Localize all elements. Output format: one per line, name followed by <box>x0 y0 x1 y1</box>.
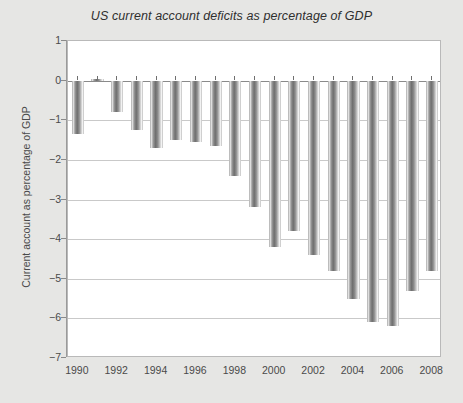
y-tick-label-1: 1 <box>35 34 61 46</box>
x-tick-label-1994: 1994 <box>136 364 176 376</box>
y-tick-label-0: 0 <box>35 74 61 86</box>
x-tick-label-1996: 1996 <box>175 364 215 376</box>
x-tick-mark-2008 <box>431 76 432 80</box>
x-tick-label-2002: 2002 <box>293 364 333 376</box>
y-tick-label--1: −1 <box>35 113 61 125</box>
x-tick-label-1990: 1990 <box>57 364 97 376</box>
y-axis-tick-labels: 10−1−2−3−4−5−6−7 <box>31 0 61 403</box>
bar-1999[interactable] <box>249 81 261 208</box>
x-tick-mark-2007 <box>411 76 412 80</box>
bar-2006[interactable] <box>387 81 399 327</box>
x-tick-mark-1990 <box>77 76 78 80</box>
bar-2004[interactable] <box>347 81 359 299</box>
x-tick-label-1992: 1992 <box>96 364 136 376</box>
y-tick-mark--5 <box>61 278 66 279</box>
chart-figure: US current account deficits as percentag… <box>0 0 463 403</box>
x-tick-mark-1996 <box>195 76 196 80</box>
bar-2003[interactable] <box>328 81 340 271</box>
x-tick-mark-1993 <box>136 76 137 80</box>
y-tick-label--6: −6 <box>35 311 61 323</box>
bar-2000[interactable] <box>269 81 281 247</box>
x-tick-mark-2000 <box>274 76 275 80</box>
x-tick-mark-1995 <box>175 76 176 80</box>
gridline--5 <box>68 279 440 280</box>
bar-1991[interactable] <box>91 79 103 81</box>
y-tick-label--5: −5 <box>35 272 61 284</box>
bar-2007[interactable] <box>406 81 418 291</box>
y-tick-mark-0 <box>61 80 66 81</box>
y-tick-label--7: −7 <box>35 351 61 363</box>
y-tick-label--2: −2 <box>35 153 61 165</box>
bar-1998[interactable] <box>229 81 241 176</box>
x-tick-mark-2005 <box>372 76 373 80</box>
x-tick-mark-2006 <box>392 76 393 80</box>
bar-1995[interactable] <box>170 81 182 140</box>
y-tick-mark--3 <box>61 199 66 200</box>
bar-2005[interactable] <box>367 81 379 323</box>
x-tick-label-2000: 2000 <box>254 364 294 376</box>
x-tick-mark-2004 <box>352 76 353 80</box>
x-tick-mark-2001 <box>293 76 294 80</box>
x-tick-label-2008: 2008 <box>411 364 451 376</box>
bar-1996[interactable] <box>190 81 202 142</box>
y-tick-mark-1 <box>61 40 66 41</box>
x-tick-mark-1994 <box>156 76 157 80</box>
bar-1997[interactable] <box>210 81 222 146</box>
x-tick-mark-1992 <box>116 76 117 80</box>
y-tick-mark--1 <box>61 119 66 120</box>
x-tick-label-2006: 2006 <box>372 364 412 376</box>
x-tick-mark-1997 <box>215 76 216 80</box>
x-tick-label-2004: 2004 <box>332 364 372 376</box>
y-tick-mark--7 <box>61 357 66 358</box>
bar-1992[interactable] <box>111 81 123 113</box>
bar-1993[interactable] <box>131 81 143 131</box>
gridline--6 <box>68 318 440 319</box>
x-tick-mark-2002 <box>313 76 314 80</box>
bar-1990[interactable] <box>72 81 84 134</box>
bar-2008[interactable] <box>426 81 438 271</box>
y-tick-mark--4 <box>61 238 66 239</box>
bar-2001[interactable] <box>288 81 300 232</box>
plot-inner <box>68 41 440 356</box>
x-tick-label-1998: 1998 <box>214 364 254 376</box>
x-tick-mark-1998 <box>234 76 235 80</box>
y-tick-mark--2 <box>61 159 66 160</box>
chart-title: US current account deficits as percentag… <box>0 9 463 23</box>
x-tick-mark-2003 <box>333 76 334 80</box>
y-tick-mark--6 <box>61 317 66 318</box>
bar-2002[interactable] <box>308 81 320 255</box>
x-tick-mark-1999 <box>254 76 255 80</box>
x-tick-mark-1991 <box>97 76 98 80</box>
y-tick-label--4: −4 <box>35 232 61 244</box>
bar-1994[interactable] <box>150 81 162 148</box>
y-tick-label--3: −3 <box>35 193 61 205</box>
gridline--4 <box>68 239 440 240</box>
plot-area <box>67 40 441 357</box>
